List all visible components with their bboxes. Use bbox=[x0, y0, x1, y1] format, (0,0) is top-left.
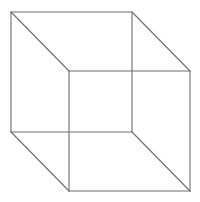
top-left-connector bbox=[11, 12, 69, 71]
top-right-connector bbox=[132, 12, 190, 71]
bottom-right-connector bbox=[132, 132, 190, 191]
wireframe-cube bbox=[0, 0, 200, 202]
bottom-left-connector bbox=[11, 132, 69, 191]
